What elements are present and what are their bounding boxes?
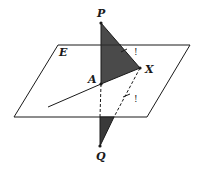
label-x: X	[144, 63, 154, 76]
mark-upper: !	[134, 47, 138, 57]
point-q	[98, 144, 101, 147]
point-p	[99, 21, 102, 24]
point-x	[138, 66, 141, 69]
geometry-diagram: P E A X Q ! !	[0, 0, 201, 170]
label-a: A	[87, 73, 97, 86]
line-in-plane	[48, 84, 101, 107]
label-e: E	[58, 46, 68, 59]
point-a	[99, 82, 102, 85]
label-q: Q	[96, 150, 106, 163]
tick-xq	[123, 94, 130, 97]
triangle-lower	[100, 117, 114, 146]
dashed-aq	[100, 84, 101, 117]
mark-lower: !	[134, 94, 138, 104]
label-p: P	[96, 7, 106, 20]
